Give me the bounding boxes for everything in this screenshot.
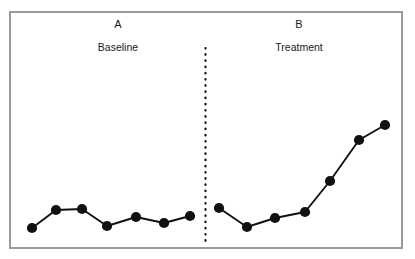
plot-frame xyxy=(9,11,403,249)
phase-b-letter: B xyxy=(259,19,339,30)
phase-a-name: Baseline xyxy=(78,42,158,53)
phase-a-letter: A xyxy=(78,19,158,30)
single-case-design-figure: A Baseline B Treatment xyxy=(0,0,415,259)
phase-b-name: Treatment xyxy=(259,42,339,53)
